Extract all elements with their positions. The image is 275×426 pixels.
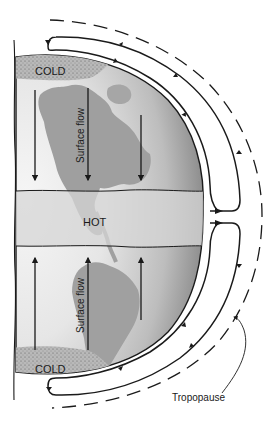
equatorial-hot-band (10, 190, 210, 247)
tropopause-label: Tropopause (172, 392, 225, 403)
tropopause-pointer (222, 317, 246, 393)
surface-flow-label-bottom: Surface flow (75, 277, 86, 333)
cold-label-top: COLD (35, 65, 66, 77)
cold-label-bottom: COLD (35, 363, 66, 375)
globe (10, 40, 210, 400)
hot-label: HOT (83, 216, 107, 228)
surface-flow-label-top: Surface flow (75, 107, 86, 163)
circulation-diagram: COLD COLD HOT Surface flow Surface flow … (0, 0, 275, 426)
